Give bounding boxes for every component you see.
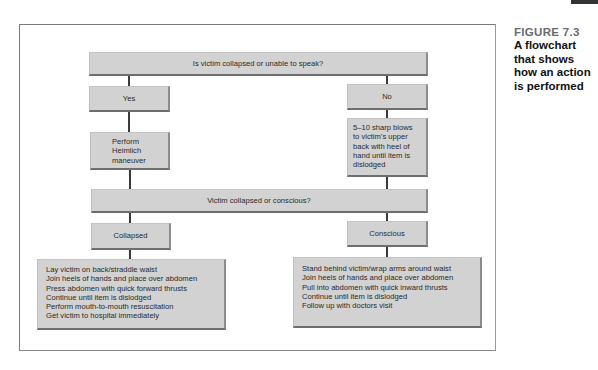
heimlich-box: Perform Heimlich maneuver: [90, 132, 170, 170]
page-corner-tab: [571, 0, 598, 4]
yes-box: Yes: [89, 86, 170, 112]
collapsed-step: Join heels of hands and place over abdom…: [46, 274, 217, 283]
collapsed-step: Perform mouth-to-mouth resuscitation: [46, 302, 217, 311]
conscious-step: Join heels of hands and place over abdom…: [302, 273, 473, 282]
heimlich-line: maneuver: [112, 156, 168, 165]
question-2-box: Victim collapsed or conscious?: [91, 189, 428, 213]
figure-description-line: is performed: [514, 80, 598, 94]
back-blows-line: to victim’s upper: [353, 132, 426, 141]
connector-yes-action: [128, 110, 130, 133]
conscious-step: Follow up with doctors visit: [302, 301, 473, 310]
collapsed-step: Press abdomen with quick forward thrusts: [46, 284, 217, 293]
heimlich-line: Heimlich: [112, 146, 168, 155]
conscious-steps-box: Stand behind victim/wrap arms around wai…: [293, 257, 482, 328]
conscious-step: Stand behind victim/wrap arms around wai…: [302, 264, 473, 273]
no-label: No: [382, 92, 392, 101]
conscious-box: Conscious: [347, 221, 428, 247]
figure-description-line: that shows: [514, 53, 598, 67]
back-blows-line: 5–10 sharp blows: [353, 123, 426, 132]
collapsed-step: Lay victim on back/straddle waist: [46, 265, 217, 274]
conscious-label: Conscious: [369, 229, 404, 238]
collapsed-box: Collapsed: [91, 223, 171, 250]
connector-noaction-q2: [386, 175, 388, 190]
back-blows-box: 5–10 sharp blows to victim’s upper back …: [347, 118, 428, 177]
back-blows-line: hand until item is: [353, 151, 426, 160]
question-2-text: Victim collapsed or conscious?: [207, 196, 311, 205]
figure-caption: FIGURE 7.3 A flowchart that shows how an…: [514, 26, 598, 93]
figure-description-line: A flowchart: [514, 39, 598, 53]
back-blows-line: dislodged: [353, 160, 426, 169]
conscious-step: Continue until item is dislodged: [302, 292, 473, 301]
conscious-step: Pull into abdomen with quick inward thru…: [302, 283, 473, 292]
connector-yesaction-q2: [129, 168, 131, 190]
heimlich-line: Perform: [112, 137, 168, 146]
question-1-text: Is victim collapsed or unable to speak?: [193, 59, 323, 68]
collapsed-label: Collapsed: [114, 231, 148, 240]
figure-label: FIGURE 7.3: [514, 26, 598, 39]
question-1-box: Is victim collapsed or unable to speak?: [89, 52, 428, 76]
collapsed-steps-box: Lay victim on back/straddle waist Join h…: [37, 259, 226, 330]
back-blows-line: back with heel of: [353, 142, 426, 151]
figure-description-line: how an action: [514, 66, 598, 80]
collapsed-step: Get victim to hospital immediately: [46, 311, 217, 320]
collapsed-step: Continue until item is dislodged: [46, 293, 217, 302]
yes-label: Yes: [123, 94, 135, 103]
no-box: No: [347, 84, 428, 110]
